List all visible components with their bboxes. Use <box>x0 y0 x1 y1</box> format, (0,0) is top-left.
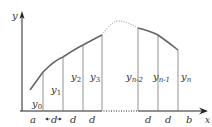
trapezoid-diagram: y x y0 y1 y2 y3 yn-2 yn-1 yn a d d d d d… <box>0 0 212 127</box>
tick-d5: d <box>165 114 171 125</box>
label-y3: y3 <box>89 71 100 84</box>
label-y2: y2 <box>70 71 81 84</box>
curve-dotted <box>102 21 138 35</box>
label-y0: y0 <box>31 98 42 111</box>
tick-d1: d <box>51 114 57 125</box>
y-axis-label: y <box>11 10 18 21</box>
label-yn-1: yn-1 <box>152 71 170 84</box>
tick-d2: d <box>70 114 76 125</box>
label-y1: y1 <box>50 84 61 97</box>
label-yn: yn <box>180 71 192 84</box>
x-axis-label: x <box>205 115 210 125</box>
label-yn-2: yn-2 <box>125 71 144 84</box>
tick-d4: d <box>145 114 151 125</box>
tick-b: b <box>186 114 192 125</box>
ordinate-lines <box>43 28 178 111</box>
arrow-left-icon <box>45 118 48 121</box>
tick-d3: d <box>89 114 95 125</box>
arrow-right-icon <box>59 118 62 121</box>
tick-a: a <box>30 114 36 125</box>
